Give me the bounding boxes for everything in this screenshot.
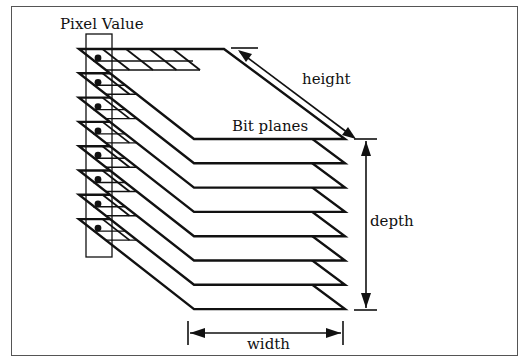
arrowhead-icon (326, 328, 341, 338)
bit-plane-stack (0, 0, 529, 363)
pixel-dot (95, 55, 102, 62)
depth-label: depth (370, 214, 414, 229)
pixel-dot (95, 176, 102, 183)
pixel-dot (95, 103, 102, 110)
height-label: height (302, 72, 351, 87)
arrowhead-icon (190, 328, 205, 338)
pixel-dot (95, 79, 102, 86)
bit-planes-label: Bit planes (232, 119, 308, 134)
width-label: width (247, 337, 290, 352)
arrowhead-icon (361, 293, 371, 308)
pixel-dot (95, 200, 102, 207)
pixel-dot (95, 152, 102, 159)
pixel-value-label: Pixel Value (60, 17, 144, 32)
pixel-dot (95, 127, 102, 134)
pixel-dot (95, 225, 102, 232)
arrowhead-icon (361, 141, 371, 156)
